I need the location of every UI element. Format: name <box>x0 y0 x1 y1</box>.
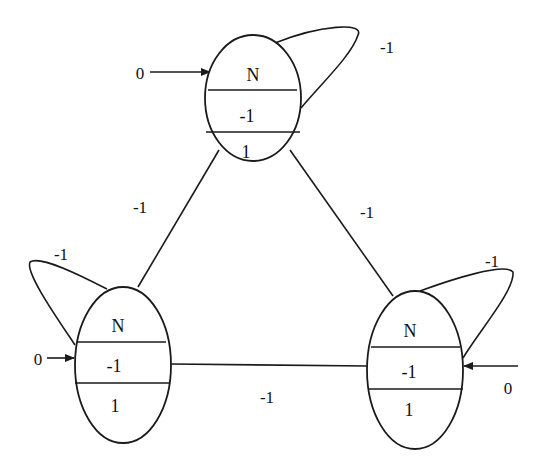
node-right-row-1: -1 <box>402 362 417 382</box>
node-top-row-2: 1 <box>242 142 251 162</box>
edge-label-top-right: -1 <box>360 203 374 222</box>
node-right: N -1 1 <box>367 291 463 449</box>
self-loop-label-right: -1 <box>485 252 499 271</box>
edge-top-left <box>138 150 219 287</box>
self-loop-label-top: -1 <box>380 38 394 57</box>
node-left: N -1 1 <box>75 287 171 443</box>
node-right-row-0: N <box>404 321 417 341</box>
input-label-left: 0 <box>34 350 43 369</box>
edge-left-right <box>171 364 368 366</box>
edge-top-right <box>290 150 393 296</box>
node-left-row-2: 1 <box>111 396 120 416</box>
self-loop-label-left: -1 <box>54 245 68 264</box>
state-diagram: N -1 1 N -1 1 N -1 1 0 0 0 -1 -1 -1 -1 -… <box>0 0 541 472</box>
node-top-row-1: -1 <box>240 106 255 126</box>
node-top-row-0: N <box>247 65 260 85</box>
input-label-top: 0 <box>136 64 145 83</box>
edge-label-top-left: -1 <box>133 198 147 217</box>
edge-label-left-right: -1 <box>260 388 274 407</box>
node-left-row-1: -1 <box>107 356 122 376</box>
input-label-right: 0 <box>504 379 513 398</box>
node-top: N -1 1 <box>205 35 301 162</box>
node-right-row-2: 1 <box>405 400 414 420</box>
node-left-row-0: N <box>112 316 125 336</box>
